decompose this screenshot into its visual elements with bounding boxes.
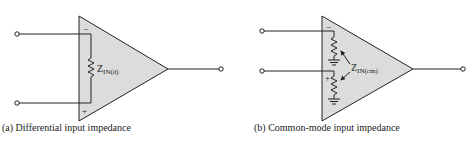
plus-sign: + (325, 73, 330, 83)
inverting-input-terminal (15, 32, 19, 36)
diagram-b-common-mode: − + ZIN(cm) (260, 16, 465, 121)
diagram-a-differential: − + ZIN(d) (15, 16, 223, 121)
minus-sign: − (83, 24, 88, 34)
plus-sign: + (82, 106, 87, 116)
noninverting-input-terminal (260, 69, 264, 73)
output-terminal (219, 67, 223, 71)
output-terminal (461, 67, 465, 71)
noninverting-input-terminal (15, 101, 19, 105)
inverting-input-terminal (260, 29, 264, 33)
caption-a: (a) Differential input impedance (2, 122, 131, 133)
caption-b: (b) Common-mode input impedance (254, 122, 400, 133)
opamp-diagrams: − + ZIN(d) − + (0, 0, 475, 142)
minus-sign: − (326, 22, 331, 32)
